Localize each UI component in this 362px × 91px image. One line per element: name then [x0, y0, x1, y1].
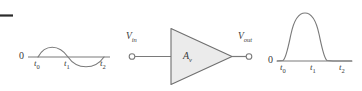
input-zero-label: 0 [19, 51, 24, 61]
amplifier-input-label-sub: in [132, 36, 137, 43]
input-tick-t1: t1 [64, 59, 70, 70]
amplifier-triangle [171, 29, 232, 85]
output-tick-t2-sub: 2 [342, 67, 345, 74]
input-tick-t2-sub: 2 [103, 63, 106, 70]
output-tick-t1-sub: 1 [313, 67, 316, 74]
input-tick-t2: t2 [100, 59, 106, 70]
figure-canvas [0, 0, 362, 91]
output-waveform-group [277, 13, 352, 61]
output-tick-t0-sub: 0 [283, 67, 286, 74]
amplifier-gain-label-sub: v [189, 56, 192, 63]
input-tick-t1-sub: 1 [67, 63, 70, 70]
amplifier-gain-label: Av [183, 51, 192, 64]
output-tick-t2: t2 [339, 63, 345, 74]
output-tick-t1: t1 [310, 63, 316, 74]
output-terminal-node [246, 54, 252, 60]
output-zero-label: 0 [268, 55, 273, 65]
output-pulse-curve [277, 13, 352, 61]
input-terminal-node [129, 54, 135, 60]
output-tick-t0: t0 [280, 63, 286, 74]
amplifier-input-label: Vin [126, 32, 137, 43]
amplifier-output-label-sub: out [244, 36, 252, 43]
input-tick-t0: t0 [34, 59, 40, 70]
amplifier-figure: 0 t0 t1 t2 Vin Av Vout 0 t0 t1 t2 [0, 0, 362, 91]
input-tick-t0-sub: 0 [37, 63, 40, 70]
amplifier-output-label: Vout [238, 32, 252, 43]
